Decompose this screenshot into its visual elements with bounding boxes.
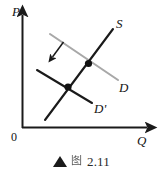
q-axis-label: Q [137,133,147,148]
equilibrium-point-initial [85,60,92,67]
solid-triangle-icon [53,156,67,167]
demand-initial-curve [50,34,118,80]
shift-arrow-icon [53,42,64,57]
demand-initial-label: D [118,80,129,95]
demand-shifted-label: D' [93,101,106,116]
figure-caption: 图 2.11 [0,149,163,173]
equilibrium-point-new [64,83,71,90]
figure-container: P Q 0 D S D' 图 2.11 [0,0,163,175]
origin-label: 0 [11,130,17,144]
caption-number: 2.11 [87,155,110,168]
caption-cjk-glyph: 图 [71,155,83,167]
p-axis-label: P [11,4,20,19]
supply-label: S [116,16,123,31]
